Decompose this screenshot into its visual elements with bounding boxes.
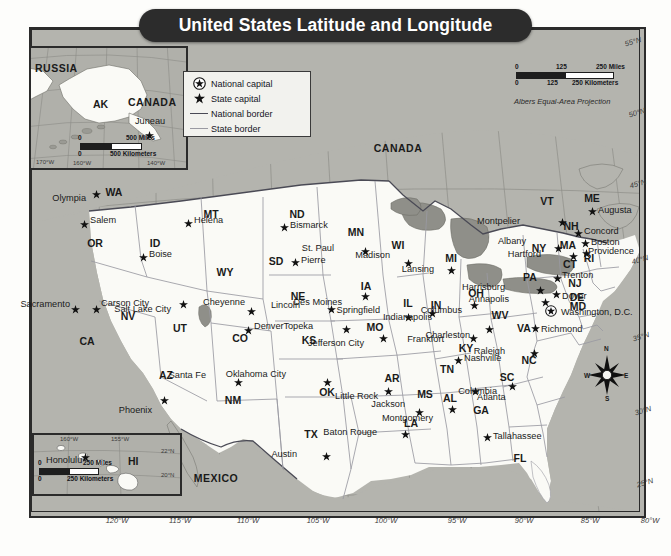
- compass-label-n: N: [604, 345, 609, 352]
- compass-label-e: E: [624, 372, 628, 379]
- legend-row-state-border: State border: [189, 121, 305, 136]
- longitude-label-120W: 120°W: [106, 517, 129, 525]
- longitude-label-115W: 115°W: [169, 517, 191, 525]
- star-icon: [189, 93, 209, 104]
- ak-scale-miles-0: 0: [78, 134, 82, 141]
- ak-scale-km-end: 500 Kilometers: [110, 150, 156, 157]
- hi-scale-miles-end: 250 Miles: [83, 459, 112, 466]
- ak-scale-km-0: 0: [78, 150, 82, 157]
- longitude-label-110W: 110°W: [237, 517, 259, 525]
- thick-line-icon: [189, 113, 209, 114]
- hawaii-inset: Honolulu HI 0 250 Miles 0 250 Kilometers…: [32, 433, 182, 496]
- longitude-label-105W: 105°W: [307, 517, 330, 525]
- main-scale-km-2: 250 Kilometers: [572, 79, 618, 86]
- longitude-label-90W: 90°W: [515, 517, 533, 525]
- compass-label-w: W: [584, 372, 590, 379]
- legend-row-state-capital: State capital: [189, 91, 305, 106]
- page-title: United States Latitude and Longitude: [139, 9, 532, 42]
- ak-scale-miles-end: 500 Miles: [126, 134, 155, 141]
- legend-row-national-capital: National capital: [189, 76, 305, 91]
- main-scale-miles-2: 250 Miles: [596, 63, 625, 70]
- alaska-inset: RUSSIA AK CANADA Juneau 0 500 Miles 0 50…: [29, 46, 188, 170]
- map-legend: National capital State capital National …: [183, 71, 311, 137]
- legend-label-national-border: National border: [211, 109, 273, 119]
- hi-scale-miles-0: 0: [38, 459, 42, 466]
- main-scale-miles-0: 0: [515, 63, 519, 70]
- hawaii-scale-bar: 0 250 Miles 0 250 Kilometers: [39, 468, 107, 475]
- main-scale-miles-1: 125: [556, 63, 567, 70]
- compass-label-s: S: [605, 395, 609, 402]
- alaska-scale-bar: 0 500 Miles 0 500 Kilometers: [80, 143, 152, 150]
- main-scale-km-1: 125: [547, 79, 558, 86]
- hi-scale-km-0: 0: [38, 475, 42, 482]
- legend-label-state-border: State border: [211, 124, 261, 134]
- thin-line-icon: [189, 128, 209, 129]
- projection-note: Albers Equal-Area Projection: [514, 97, 610, 106]
- longitude-label-85W: 85°W: [581, 517, 599, 525]
- ak-scale-graphic: [80, 143, 142, 150]
- hi-scale-graphic: [39, 468, 99, 475]
- legend-row-national-border: National border: [189, 106, 305, 121]
- circled-star-icon: [189, 77, 209, 90]
- longitude-label-80W: 80°W: [641, 517, 659, 525]
- main-scale-graphic: [516, 72, 614, 79]
- main-scale-bar: 0 125 250 Miles 0 125 250 Kilometers: [516, 72, 636, 79]
- alaska-inset-geography: [29, 47, 187, 169]
- legend-label-national-capital: National capital: [211, 79, 273, 89]
- longitude-label-100W: 100°W: [375, 517, 398, 525]
- page-title-text: United States Latitude and Longitude: [179, 15, 493, 36]
- legend-label-state-capital: State capital: [211, 94, 261, 104]
- map-page: United States Latitude and Longitude: [0, 0, 671, 556]
- hi-scale-km-end: 250 Kilometers: [67, 475, 113, 482]
- compass-rose: N E W S: [583, 345, 631, 403]
- main-scale-km-0: 0: [515, 79, 519, 86]
- longitude-label-95W: 95°W: [448, 517, 466, 525]
